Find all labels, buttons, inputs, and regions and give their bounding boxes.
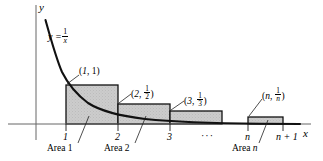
paren-close: ) — [203, 96, 206, 106]
figure-canvas — [0, 0, 323, 161]
x-axis-label: x — [303, 128, 308, 139]
comma: , — [139, 89, 144, 99]
x-axis-ticks — [66, 124, 283, 131]
x-tick-label-n: n — [245, 132, 250, 142]
harmonic-series-figure: y x y =1x (1, 1) (2, 12) (3, 13) (n, 1n)… — [0, 0, 323, 161]
leader-point-1 — [67, 75, 79, 84]
point-label-2-half: (2, 12) — [131, 85, 154, 101]
point-label-n-oneovern: (n, 1n) — [262, 87, 285, 103]
area-label-1: Area 1 — [47, 144, 73, 154]
comma: , — [270, 91, 275, 101]
leader-point-3 — [171, 101, 184, 110]
leader-point-2 — [119, 94, 131, 103]
x-tick-label-1: 1 — [63, 132, 68, 142]
point-label-1-1: (1, 1) — [79, 67, 100, 77]
paren-close: ) — [96, 66, 99, 76]
curve-equation-label: y =1x — [48, 28, 69, 45]
paren-close: ) — [281, 91, 284, 101]
point-label-3-third: (3, 13) — [184, 92, 207, 108]
equation-fraction: 1x — [62, 28, 68, 45]
x-tick-label-3: 3 — [167, 132, 172, 142]
area-n-prefix: Area — [232, 143, 253, 153]
equation-denominator: x — [62, 37, 68, 45]
comma: , — [192, 96, 197, 106]
area-n-variable: n — [253, 143, 258, 153]
x-tick-label-2: 2 — [115, 132, 120, 142]
area-label-n: Area n — [232, 144, 258, 154]
area-label-2: Area 2 — [104, 144, 130, 154]
x-axis-ellipsis: ··· — [201, 131, 214, 141]
paren-close: ) — [150, 89, 153, 99]
equation-lhs: y = — [48, 31, 62, 42]
y-axis-label: y — [39, 2, 44, 13]
rectangle-group — [66, 85, 283, 124]
leader-point-n — [249, 99, 262, 116]
x-tick-label-n-plus-1: n + 1 — [276, 132, 298, 142]
